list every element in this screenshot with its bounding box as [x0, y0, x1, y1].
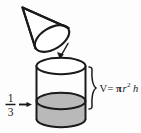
geometry-diagram: 1 3 V = π r 2 h — [0, 0, 141, 133]
cylinder-top-ellipse — [37, 58, 86, 74]
formula-v: V — [100, 83, 108, 94]
fraction-arrow-head — [27, 102, 33, 107]
height-brace — [89, 67, 96, 109]
cylinder-shape — [37, 58, 86, 127]
cylinder-liquid-surface — [37, 93, 86, 109]
fraction-numerator: 1 — [8, 92, 14, 104]
formula-exponent: 2 — [127, 81, 131, 89]
fraction-label: 1 3 — [6, 92, 16, 118]
geometry-illustration: 1 3 V = π r 2 h — [0, 0, 141, 133]
brace-path — [89, 67, 96, 109]
cone-shape — [23, 8, 74, 58]
formula-h: h — [133, 83, 138, 94]
fraction-denominator: 3 — [8, 106, 14, 118]
formula-pi: π — [116, 83, 122, 94]
formula-equals: = — [108, 83, 114, 94]
volume-formula: V = π r 2 h — [100, 81, 139, 94]
fraction-arrow — [19, 102, 32, 107]
